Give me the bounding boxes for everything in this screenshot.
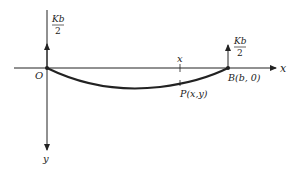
point-p-label: P(x,y) (179, 88, 208, 99)
right-force-numerator: Kb (233, 36, 247, 46)
x-axis-label: x (280, 62, 287, 75)
y-axis-label: y (42, 153, 49, 164)
x-tick-label: x (177, 53, 183, 64)
deflection-diagram: x y O B(b, 0) x P(x,y) Kb 2 Kb 2 (0, 0, 295, 174)
right-force-denominator: 2 (237, 48, 243, 58)
left-force-denominator: 2 (55, 26, 61, 36)
origin-label: O (35, 70, 43, 81)
left-force-numerator: Kb (51, 14, 65, 24)
deflection-curve (47, 68, 228, 88)
point-b-label: B(b, 0) (227, 72, 261, 83)
